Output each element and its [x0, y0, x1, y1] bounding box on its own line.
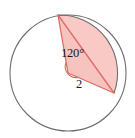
geometry-canvas	[0, 0, 135, 138]
geometry-figure: 120° 2	[0, 0, 135, 138]
angle-label: 120°	[61, 47, 84, 60]
radius-length-label: 2	[76, 78, 82, 91]
